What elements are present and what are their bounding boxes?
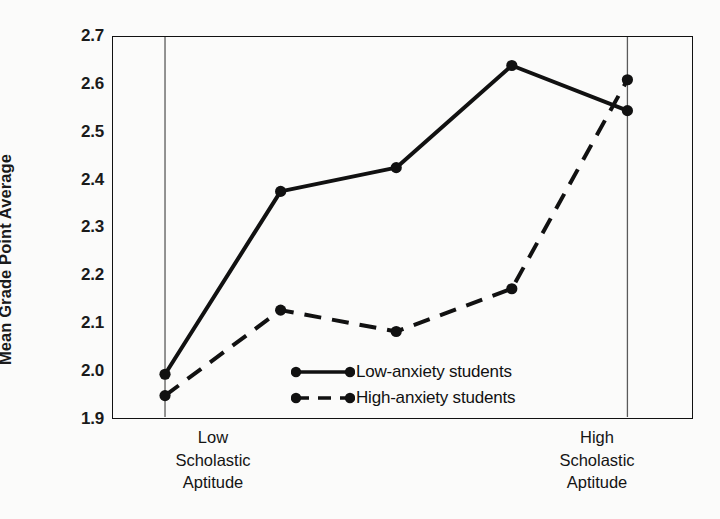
y-tick-label: 2.5 (81, 122, 104, 142)
legend-item-high-anxiety: High-anxiety students (291, 385, 581, 411)
x-tick-line-2: Scholastic (113, 449, 313, 472)
legend-label: High-anxiety students (356, 388, 515, 408)
x-tick-line-3: Aptitude (113, 471, 313, 494)
data-point-marker (275, 186, 286, 197)
y-tick-label: 1.9 (81, 409, 104, 429)
series-line-1 (165, 80, 627, 396)
y-tick-label: 2.2 (81, 265, 104, 285)
y-tick-label: 2.1 (81, 313, 104, 333)
x-tick-label-low: Low Scholastic Aptitude (113, 426, 313, 494)
y-axis-title: Mean Grade Point Average (0, 0, 44, 519)
data-point-marker (391, 326, 402, 337)
legend-item-low-anxiety: Low-anxiety students (291, 359, 581, 385)
data-point-marker (506, 60, 517, 71)
data-point-marker (391, 162, 402, 173)
series-markers (159, 60, 633, 401)
legend-label: Low-anxiety students (356, 362, 512, 382)
y-axis-tick-labels: 2.7 2.6 2.5 2.4 2.3 2.2 2.1 2.0 1.9 (44, 0, 110, 519)
series-lines (165, 66, 627, 396)
x-tick-label-high: High Scholastic Aptitude (497, 426, 697, 494)
x-tick-line-3: Aptitude (497, 471, 697, 494)
data-point-marker (622, 74, 633, 85)
data-point-marker (159, 369, 170, 380)
chart-legend: Low-anxiety students High-anxiety studen… (291, 359, 581, 411)
y-tick-label: 2.7 (81, 26, 104, 46)
data-point-marker (506, 283, 517, 294)
y-tick-label: 2.3 (81, 217, 104, 237)
x-tick-line-1: Low (113, 426, 313, 449)
chart-figure: Mean Grade Point Average 2.7 2.6 2.5 2.4… (0, 0, 720, 519)
data-point-marker (275, 305, 286, 316)
data-point-marker (622, 105, 633, 116)
y-tick-label: 2.6 (81, 74, 104, 94)
legend-swatch-solid-line-icon (291, 361, 355, 383)
x-tick-line-1: High (497, 426, 697, 449)
legend-swatch-dashed-line-icon (291, 387, 355, 409)
data-point-marker (159, 390, 170, 401)
y-tick-label: 2.4 (81, 170, 104, 190)
x-tick-line-2: Scholastic (497, 449, 697, 472)
y-tick-label: 2.0 (81, 361, 104, 381)
